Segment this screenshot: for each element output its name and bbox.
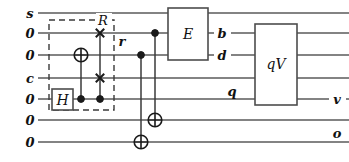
entangler-gate-label: E — [182, 26, 193, 42]
cswap-1-control-dot — [97, 96, 104, 103]
qv-gate: qV — [255, 24, 297, 105]
signal-label-b: b — [217, 26, 226, 41]
group-label-R: R — [97, 13, 108, 28]
input-label-wire-1: s — [26, 6, 34, 21]
input-label-wire-7: 0 — [25, 135, 34, 150]
input-label-wire-3: 0 — [25, 48, 34, 63]
circuit-canvas: R H — [0, 0, 349, 162]
hadamard-gate-label: H — [55, 92, 69, 108]
quantum-circuit-figure: R H — [0, 0, 349, 162]
cnot-2 — [134, 52, 148, 149]
signal-label-r: r — [119, 34, 127, 49]
cnot-1 — [74, 48, 88, 102]
input-label-wire-2: 0 — [25, 26, 34, 41]
cnot-1-control-dot — [78, 96, 85, 103]
cswap-1 — [96, 29, 104, 103]
input-label-wire-6: 0 — [25, 113, 34, 128]
hadamard-gate: H — [52, 89, 73, 110]
output-label-o: o — [333, 126, 342, 141]
signal-label-q: q — [227, 84, 236, 99]
input-label-group: s 0 0 c 0 0 0 — [25, 6, 34, 150]
signal-label-d: d — [217, 48, 226, 63]
qv-gate-label: qV — [266, 56, 287, 72]
input-label-wire-4: c — [26, 71, 34, 86]
output-label-v: v — [333, 92, 341, 107]
cnot-2-control-dot — [138, 52, 145, 59]
entangler-gate: E — [168, 8, 208, 60]
output-label-group: v o — [329, 91, 346, 141]
input-label-wire-5: 0 — [25, 92, 34, 107]
cnot-3-control-dot — [152, 30, 159, 37]
